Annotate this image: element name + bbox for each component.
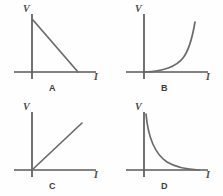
panel-label-b: B: [161, 84, 168, 93]
graph-panel-a: V I A: [0, 0, 111, 98]
i-axis-label: I: [94, 72, 98, 82]
i-axis-label: I: [206, 170, 210, 180]
curve-d-decreasing-exponential: [146, 114, 199, 170]
v-axis-label: V: [135, 102, 142, 112]
curve-b-increasing-exponential: [145, 22, 195, 72]
graph-panel-d: V I D: [112, 98, 223, 196]
panel-label-a: A: [49, 84, 56, 93]
curve-a-decreasing-linear: [33, 20, 78, 72]
i-axis-label: I: [206, 72, 210, 82]
v-axis-label: V: [23, 102, 30, 112]
panel-label-d: D: [161, 182, 168, 191]
figure-sheet: V I A V I B V I C V I D: [0, 0, 223, 196]
graph-panel-b: V I B: [112, 0, 223, 98]
panel-label-c: C: [49, 182, 56, 191]
i-axis-label: I: [94, 170, 98, 180]
v-axis-label: V: [135, 4, 142, 14]
curve-c-increasing-linear: [32, 123, 82, 170]
v-axis-label: V: [23, 4, 30, 14]
graph-panel-c: V I C: [0, 98, 111, 196]
